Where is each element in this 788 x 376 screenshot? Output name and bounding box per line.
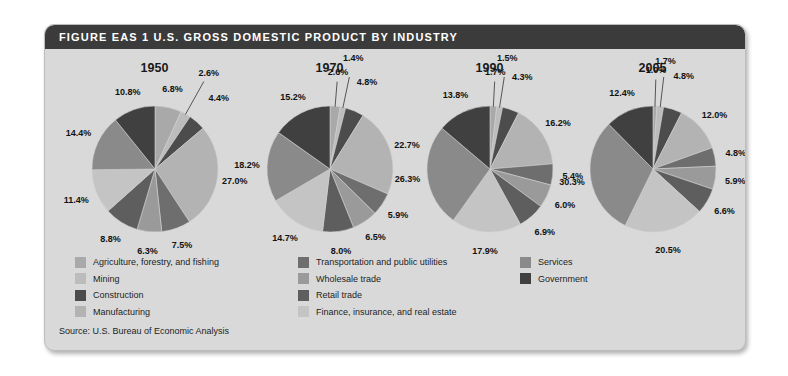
legend-item: Manufacturing (75, 304, 219, 321)
pie-slice-label: 5.9% (725, 176, 746, 186)
legend-column-2: Transportation and public utilitiesWhole… (298, 254, 457, 320)
label-leader-line (343, 77, 351, 108)
pie-svg (242, 77, 417, 252)
legend-swatch-icon (75, 257, 86, 268)
legend-item: Services (520, 254, 588, 271)
pie-holder: 1.7%1.5%4.3%16.2%5.4%6.0%6.9%17.9%26.3%1… (402, 77, 577, 252)
legend-swatch-icon (520, 257, 531, 268)
legend-swatch-icon (298, 290, 309, 301)
pie-svg (67, 77, 242, 252)
legend-swatch-icon (298, 257, 309, 268)
pie-slice-label: 4.8% (674, 71, 695, 81)
legend-item-label: Manufacturing (93, 307, 150, 317)
legend-item: Agriculture, forestry, and fishing (75, 254, 219, 271)
pie-slice-label: 13.8% (443, 90, 469, 100)
pie-slice-label: 6.9% (535, 227, 556, 237)
pie-slice-label: 12.0% (702, 110, 728, 120)
source-note: Source: U.S. Bureau of Economic Analysis (59, 326, 229, 336)
pie-svg (565, 77, 740, 252)
pie-slice-label: 18.2% (234, 160, 260, 170)
legend-item: Mining (75, 271, 219, 288)
legend-item: Transportation and public utilities (298, 254, 457, 271)
legend-swatch-icon (298, 273, 309, 284)
pie-slice-label: 6.5% (365, 232, 386, 242)
legend-item: Construction (75, 287, 219, 304)
pie-slice-label: 1.7% (485, 67, 506, 77)
pie-slice-label: 12.4% (609, 88, 635, 98)
legend-item: Government (520, 271, 588, 288)
pie-holder: 6.8%2.6%4.4%27.0%7.5%6.3%8.8%11.4%14.4%1… (67, 77, 242, 252)
pie-slice-label: 4.8% (357, 77, 378, 87)
pie-slice-label: 1.4% (343, 53, 364, 63)
label-leader-line (655, 80, 656, 107)
pie-slice-label: 30.3% (559, 177, 585, 187)
legend-item-label: Government (538, 274, 588, 284)
pie-slice-label: 20.5% (655, 245, 681, 255)
pie-slice-label: 26.3% (395, 174, 421, 184)
legend-item-label: Services (538, 257, 573, 267)
pie-slice-label: 2.6% (328, 67, 349, 77)
pie-slice-label: 4.3% (512, 72, 533, 82)
legend-swatch-icon (75, 306, 86, 317)
chart-legend: Agriculture, forestry, and fishingMining… (45, 254, 745, 320)
pie-charts-row: 19506.8%2.6%4.4%27.0%7.5%6.3%8.8%11.4%14… (45, 59, 745, 254)
legend-swatch-icon (75, 290, 86, 301)
pie-slice-label: 6.8% (162, 84, 183, 94)
label-leader-line (660, 77, 664, 107)
pie-chart-1950: 19506.8%2.6%4.4%27.0%7.5%6.3%8.8%11.4%14… (67, 59, 242, 254)
legend-item-label: Finance, insurance, and real estate (316, 307, 457, 317)
legend-item-label: Wholesale trade (316, 274, 381, 284)
legend-swatch-icon (520, 273, 531, 284)
legend-item-label: Transportation and public utilities (316, 257, 447, 267)
pie-slice-label: 1.7% (655, 56, 676, 66)
legend-swatch-icon (298, 306, 309, 317)
figure-header: FIGURE EAS 1 U.S. GROSS DOMESTIC PRODUCT… (45, 25, 745, 49)
pie-slice-label: 1.5% (497, 53, 518, 63)
label-leader-line (185, 82, 203, 115)
figure-body: 19506.8%2.6%4.4%27.0%7.5%6.3%8.8%11.4%14… (45, 49, 745, 349)
legend-column-3: ServicesGovernment (520, 254, 588, 287)
legend-item: Retail trade (298, 287, 457, 304)
pie-slice-label: 4.8% (726, 148, 746, 158)
legend-item-label: Mining (93, 274, 120, 284)
pie-slice-label: 11.4% (64, 195, 89, 205)
label-leader-line (493, 82, 494, 107)
pie-slice-label: 15.2% (280, 92, 306, 102)
pie-slice-label: 4.4% (209, 93, 230, 103)
pie-slice-label: 14.4% (66, 128, 92, 138)
legend-item-label: Construction (93, 290, 144, 300)
pie-slice-label: 8.8% (100, 234, 121, 244)
legend-item: Wholesale trade (298, 271, 457, 288)
pie-holder: 2.6%1.4%4.8%22.7%5.9%6.5%8.0%14.7%18.2%1… (242, 77, 417, 252)
pie-holder: 1.0%1.7%4.8%12.0%4.8%5.9%6.6%20.5%30.3%1… (565, 77, 740, 252)
legend-item: Finance, insurance, and real estate (298, 304, 457, 321)
pie-slice-label: 6.6% (714, 206, 735, 216)
legend-item-label: Retail trade (316, 290, 362, 300)
legend-column-1: Agriculture, forestry, and fishingMining… (75, 254, 219, 320)
pie-slice-label: 2.6% (198, 68, 219, 78)
pie-chart-1970: 19702.6%1.4%4.8%22.7%5.9%6.5%8.0%14.7%18… (242, 59, 417, 254)
pie-chart-1990: 19901.7%1.5%4.3%16.2%5.4%6.0%6.9%17.9%26… (402, 59, 577, 254)
figure-card: FIGURE EAS 1 U.S. GROSS DOMESTIC PRODUCT… (44, 24, 746, 351)
figure-header-title: FIGURE EAS 1 U.S. GROSS DOMESTIC PRODUCT… (59, 31, 458, 43)
pie-slice-label: 10.8% (115, 87, 141, 97)
pie-slice-label: 7.5% (172, 240, 193, 250)
pie-slice-label: 14.7% (272, 233, 298, 243)
legend-item-label: Agriculture, forestry, and fishing (93, 257, 219, 267)
legend-swatch-icon (75, 273, 86, 284)
pie-chart-2005: 20051.0%1.7%4.8%12.0%4.8%5.9%6.6%20.5%30… (565, 59, 740, 254)
label-leader-line (500, 77, 506, 107)
label-leader-line (335, 82, 337, 107)
